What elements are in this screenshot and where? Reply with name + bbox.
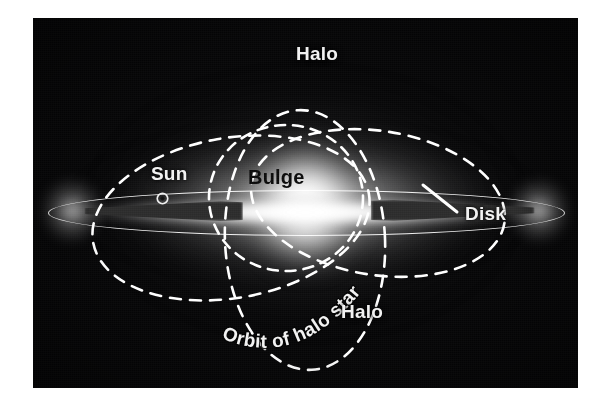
label-disk: Disk bbox=[465, 203, 506, 225]
orbit-lobe-left bbox=[79, 115, 383, 321]
label-bulge: Bulge bbox=[248, 166, 305, 189]
figure-page: Orbit of halo star Halo Halo Sun Bulge D… bbox=[0, 0, 599, 412]
bulge-circle bbox=[209, 125, 363, 271]
disk-tip-left-glow bbox=[36, 177, 101, 244]
label-halo-top: Halo bbox=[296, 43, 338, 65]
dust-lane-right bbox=[371, 200, 535, 221]
bulge-glow bbox=[232, 125, 379, 280]
sun-symbol-icon bbox=[155, 191, 170, 206]
orbit-lobe-bottom bbox=[218, 106, 391, 374]
disk-leader-line bbox=[423, 185, 457, 212]
galaxy-plate: Orbit of halo star Halo Halo Sun Bulge D… bbox=[33, 18, 578, 388]
disk-tip-right-glow bbox=[510, 177, 575, 244]
label-sun: Sun bbox=[151, 163, 188, 185]
label-halo-bottom: Halo bbox=[341, 301, 383, 323]
